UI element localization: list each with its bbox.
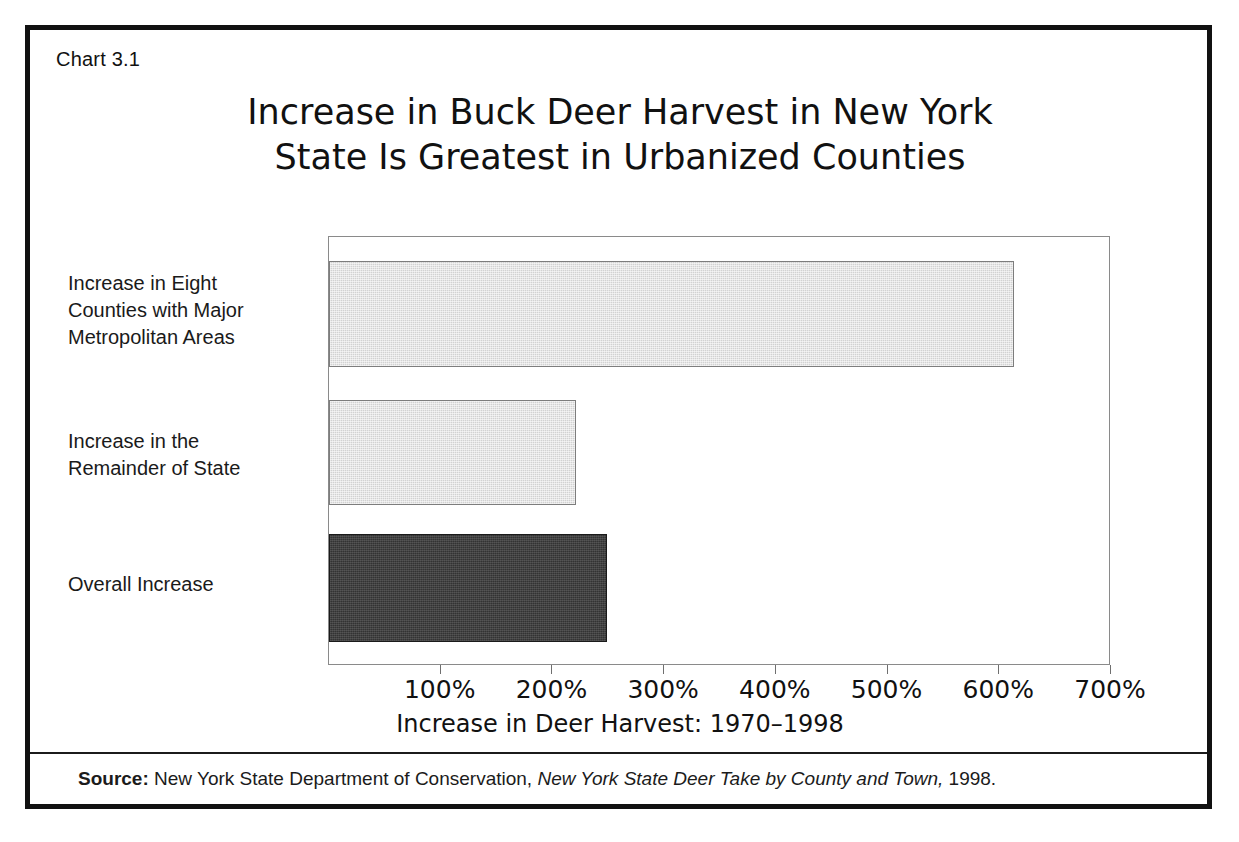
category-label-line: Metropolitan Areas — [68, 324, 318, 351]
bar-remainder-of-state — [329, 400, 576, 505]
x-axis-tick-mark — [440, 665, 441, 674]
plot-area — [328, 236, 1110, 665]
x-axis-tick-label: 400% — [715, 675, 835, 704]
x-axis-tick-mark — [551, 665, 552, 674]
x-axis-tick-mark — [1110, 665, 1111, 674]
x-axis-tick-label: 300% — [603, 675, 723, 704]
bar-urban-counties — [329, 261, 1014, 367]
x-axis-tick-label: 700% — [1050, 675, 1170, 704]
plot-wrapper: Increase in Eight Counties with Major Me… — [30, 30, 1207, 804]
source-note: Source: New York State Department of Con… — [78, 766, 1177, 792]
category-label-line: Remainder of State — [68, 455, 318, 482]
source-prefix: Source: — [78, 768, 149, 789]
x-axis-tick-mark — [887, 665, 888, 674]
category-label-remainder-of-state: Increase in the Remainder of State — [68, 428, 318, 482]
x-axis-tick-mark — [998, 665, 999, 674]
x-axis-tick-mark — [775, 665, 776, 674]
figure-frame: Chart 3.1 Increase in Buck Deer Harvest … — [25, 25, 1212, 809]
category-label-line: Increase in the — [68, 428, 318, 455]
source-publication: New York State Deer Take by County and T… — [537, 768, 943, 789]
category-label-line: Counties with Major — [68, 297, 318, 324]
x-axis-title: Increase in Deer Harvest: 1970–1998 — [90, 710, 1150, 738]
x-axis-tick-label: 600% — [938, 675, 1058, 704]
x-axis-tick-label: 100% — [380, 675, 500, 704]
x-axis-tick-label: 200% — [491, 675, 611, 704]
category-label-urban-counties: Increase in Eight Counties with Major Me… — [68, 270, 318, 351]
source-agency: New York State Department of Conservatio… — [149, 768, 538, 789]
category-label-line: Overall Increase — [68, 571, 318, 598]
source-divider — [30, 752, 1207, 754]
x-axis-tick-label: 500% — [827, 675, 947, 704]
category-label-overall-increase: Overall Increase — [68, 571, 318, 598]
bar-overall-increase — [329, 534, 607, 642]
category-label-line: Increase in Eight — [68, 270, 318, 297]
x-axis-tick-mark — [663, 665, 664, 674]
source-year: 1998. — [943, 768, 996, 789]
